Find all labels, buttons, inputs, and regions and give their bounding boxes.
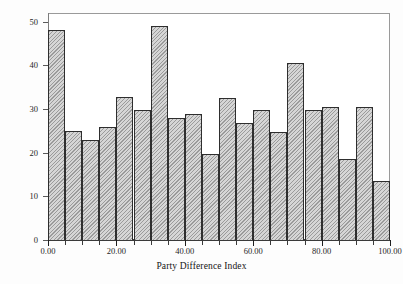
histogram-bar	[116, 97, 133, 240]
x-axis-tick-label: 100.00	[378, 247, 401, 256]
x-axis-tick-minor	[99, 240, 100, 245]
x-axis-tick-minor	[151, 240, 152, 245]
y-axis-tick-label: 20	[30, 149, 39, 158]
x-axis-tick-minor	[134, 240, 135, 245]
x-axis-tick-minor	[236, 240, 237, 245]
histogram-bar	[270, 132, 287, 240]
x-axis-tick-minor	[219, 240, 220, 245]
histogram-bar	[373, 181, 390, 240]
x-axis-tick-label: 20.00	[107, 247, 126, 256]
histogram-bars	[48, 13, 390, 240]
histogram-bar	[253, 110, 270, 240]
y-axis-tick-label: 50	[30, 18, 39, 27]
x-axis-tick-minor	[305, 240, 306, 245]
x-axis-tick-minor	[270, 240, 271, 245]
x-axis-tick-minor	[82, 240, 83, 245]
x-axis-tick-label: 0.00	[41, 247, 56, 256]
histogram-figure: 01020304050 0.0020.0040.0060.0080.00100.…	[0, 0, 403, 284]
histogram-bar	[287, 63, 304, 240]
y-axis-tick-label: 10	[30, 192, 39, 201]
histogram-bar	[168, 118, 185, 240]
x-axis-tick-label: 80.00	[312, 247, 331, 256]
histogram-bar	[82, 140, 99, 240]
histogram-bar	[202, 154, 219, 240]
x-axis-tick-minor	[65, 240, 66, 245]
x-axis-tick-minor	[373, 240, 374, 245]
histogram-bar	[322, 107, 339, 240]
histogram-bar	[151, 26, 168, 240]
x-axis-tick-label: 40.00	[175, 247, 194, 256]
y-axis-tick-label: 0	[34, 236, 38, 245]
x-axis-tick-minor	[202, 240, 203, 245]
x-axis-tick-minor	[339, 240, 340, 245]
histogram-bar	[99, 127, 116, 241]
y-axis-tick-label: 30	[30, 105, 39, 114]
y-axis-tick-label: 40	[30, 61, 39, 70]
histogram-bar	[236, 123, 253, 240]
histogram-bar	[134, 110, 151, 240]
x-axis-tick-minor	[168, 240, 169, 245]
histogram-bar	[185, 114, 202, 240]
histogram-bar	[356, 107, 373, 240]
x-axis-title: Party Difference Index	[0, 261, 403, 271]
histogram-bar	[48, 30, 65, 240]
x-axis-tick-minor	[356, 240, 357, 245]
x-axis-tick-minor	[287, 240, 288, 245]
histogram-bar	[219, 98, 236, 240]
histogram-bar	[339, 159, 356, 240]
x-axis-tick-label: 60.00	[244, 247, 263, 256]
histogram-bar	[65, 131, 82, 240]
histogram-bar	[305, 110, 322, 240]
